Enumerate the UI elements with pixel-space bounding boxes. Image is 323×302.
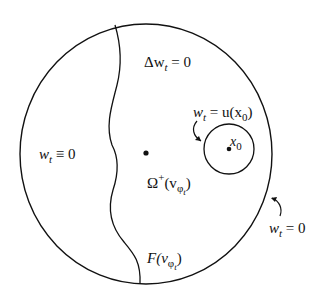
free-boundary-label: F(vφt) [146, 250, 182, 272]
outer-circle-arrow [272, 198, 281, 216]
free-boundary-curve [109, 25, 140, 284]
laplace-equation-label: Δwt = 0 [144, 54, 191, 73]
omega-point [143, 150, 148, 155]
outer-bc-label: wt = 0 [269, 220, 306, 239]
free-boundary-diagram: Δwt = 0 wt ≡ 0 wt = u(x0) x0 Ω+(vφt) F(v… [0, 0, 323, 302]
omega-label: Ω+(vφt) [147, 171, 191, 197]
left-region-label: wt ≡ 0 [39, 146, 76, 165]
small-circle-bc-label: wt = u(x0) [193, 104, 253, 123]
